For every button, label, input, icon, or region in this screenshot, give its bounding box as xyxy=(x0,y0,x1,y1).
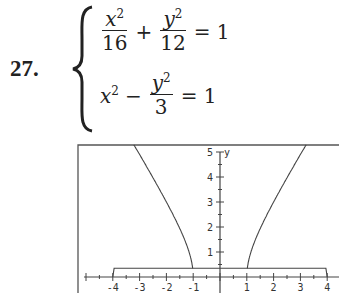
hyperbola-right-branch xyxy=(247,145,306,268)
y-axis-label: y xyxy=(224,147,230,158)
x-tick-label: -3 xyxy=(134,282,146,293)
y-tick-label: 2 xyxy=(207,222,213,233)
hyperbola-left-branch xyxy=(134,145,193,268)
x-tick-label: 3 xyxy=(297,282,303,293)
graph-frame xyxy=(78,145,339,293)
y-tick-label: 5 xyxy=(207,147,213,158)
x-tick-label: 4 xyxy=(324,282,330,293)
x-tick-label: -2 xyxy=(160,282,172,293)
x-tick-label: -4 xyxy=(107,282,119,293)
x-tick-label: -1 xyxy=(187,282,199,293)
y-tick-label: 4 xyxy=(207,172,213,183)
y-tick-label: 1 xyxy=(207,247,213,258)
graph: -4-3-2-1123412345y xyxy=(0,0,339,293)
x-tick-label: 2 xyxy=(271,282,277,293)
x-tick-label: 1 xyxy=(244,282,250,293)
y-tick-label: 3 xyxy=(207,197,213,208)
